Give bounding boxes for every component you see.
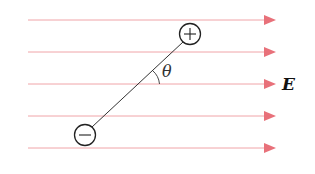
angle-label: θ [162, 62, 172, 81]
dipole-in-field-diagram: E θ [0, 0, 315, 174]
field-line [28, 15, 276, 25]
field-line [28, 79, 276, 89]
positive-charge [180, 24, 201, 45]
field-label: E [281, 74, 296, 94]
arrow-right-icon [264, 47, 276, 57]
arrow-right-icon [264, 79, 276, 89]
field-lines [28, 15, 276, 153]
arrow-right-icon [264, 15, 276, 25]
arrow-right-icon [264, 111, 276, 121]
field-line [28, 47, 276, 57]
arrow-right-icon [264, 143, 276, 153]
field-line [28, 111, 276, 121]
angle-arc [153, 71, 160, 85]
field-line [28, 143, 276, 153]
negative-charge [75, 125, 96, 146]
